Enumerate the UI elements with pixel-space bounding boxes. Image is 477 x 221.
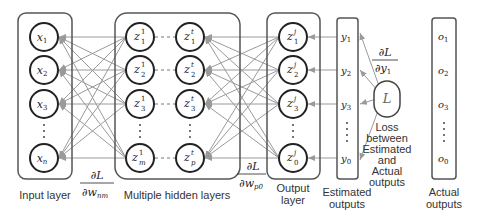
svg-text:m: m xyxy=(139,159,146,167)
svg-text:1: 1 xyxy=(294,38,298,46)
actual-label-line2: outputs xyxy=(426,198,463,210)
svg-text:1: 1 xyxy=(191,38,195,46)
hidden-layers-label: Multiple hidden layers xyxy=(124,189,231,201)
svg-text:z: z xyxy=(183,30,190,43)
output-layer-label-line1: Output xyxy=(276,182,309,194)
svg-text:∂wp0: ∂wp0 xyxy=(239,177,264,191)
svg-text:3: 3 xyxy=(141,105,145,113)
estimated-output-edges xyxy=(308,37,337,158)
svg-text:o3: o3 xyxy=(438,99,449,112)
output-nodes xyxy=(279,23,307,172)
svg-text:z: z xyxy=(286,151,293,164)
estimated-label-line1: Estimated xyxy=(323,186,372,198)
hidden-output-edges xyxy=(205,37,279,158)
svg-text:z: z xyxy=(183,63,190,76)
loss-caption: Loss between Estimated and Actual output… xyxy=(363,121,412,188)
svg-text:2: 2 xyxy=(141,71,145,79)
svg-text:o2: o2 xyxy=(438,65,449,78)
svg-text:p: p xyxy=(191,159,196,167)
svg-text:∂L: ∂L xyxy=(247,160,260,173)
hidden-nodes-last xyxy=(176,23,204,172)
svg-text:y1: y1 xyxy=(340,31,351,44)
svg-text:∂L: ∂L xyxy=(379,46,392,59)
svg-text:t: t xyxy=(191,28,194,36)
svg-text:2: 2 xyxy=(191,71,195,79)
actual-values: o1 o2 o3 o0 xyxy=(438,31,449,166)
svg-text:0: 0 xyxy=(294,159,298,167)
gradient-output-weights: ∂L ∂wp0 xyxy=(237,160,266,191)
gradient-estimated: ∂L ∂y1 xyxy=(372,46,398,76)
svg-text:z: z xyxy=(133,63,140,76)
svg-text:z: z xyxy=(183,151,190,164)
svg-text:z: z xyxy=(286,30,293,43)
svg-text:2: 2 xyxy=(294,71,298,79)
svg-text:∂L: ∂L xyxy=(91,169,104,182)
estimated-values: y1 y2 y3 y0 xyxy=(340,31,351,166)
svg-text:z: z xyxy=(183,97,190,110)
loss-symbol: L xyxy=(382,91,392,106)
svg-text:z: z xyxy=(286,97,293,110)
svg-text:∂y1: ∂y1 xyxy=(375,62,391,76)
svg-text:y3: y3 xyxy=(340,99,351,112)
actual-label-line1: Actual xyxy=(429,186,460,198)
svg-text:1: 1 xyxy=(141,28,145,36)
svg-text:o0: o0 xyxy=(438,153,449,166)
hidden-dashed-connectors xyxy=(155,37,176,158)
backprop-diagram: x1 x2 x3 xn z 1 1 z 1 2 z 1 3 z 1 m z t … xyxy=(0,0,477,221)
svg-text:y0: y0 xyxy=(340,153,351,166)
svg-text:z: z xyxy=(131,151,138,164)
svg-text:t: t xyxy=(191,149,194,157)
svg-text:1: 1 xyxy=(141,38,145,46)
svg-text:z: z xyxy=(133,30,140,43)
svg-text:y2: y2 xyxy=(340,65,351,78)
svg-text:1: 1 xyxy=(139,149,143,157)
svg-text:∂wnm: ∂wnm xyxy=(82,186,109,200)
svg-text:t: t xyxy=(191,61,194,69)
input-layer-label: Input layer xyxy=(19,189,71,201)
svg-text:outputs: outputs xyxy=(369,176,406,188)
svg-text:z: z xyxy=(286,63,293,76)
gradient-input-weights: ∂L ∂wnm xyxy=(80,169,114,200)
input-nodes xyxy=(30,23,58,172)
svg-text:1: 1 xyxy=(141,95,145,103)
svg-text:z: z xyxy=(133,97,140,110)
svg-text:3: 3 xyxy=(294,105,298,113)
svg-text:3: 3 xyxy=(191,105,195,113)
input-hidden-edges xyxy=(59,37,126,158)
svg-text:1: 1 xyxy=(141,61,145,69)
svg-text:t: t xyxy=(191,95,194,103)
estimated-label-line2: outputs xyxy=(329,198,366,210)
output-layer-label-line2: layer xyxy=(281,194,305,206)
svg-text:o1: o1 xyxy=(438,31,449,44)
